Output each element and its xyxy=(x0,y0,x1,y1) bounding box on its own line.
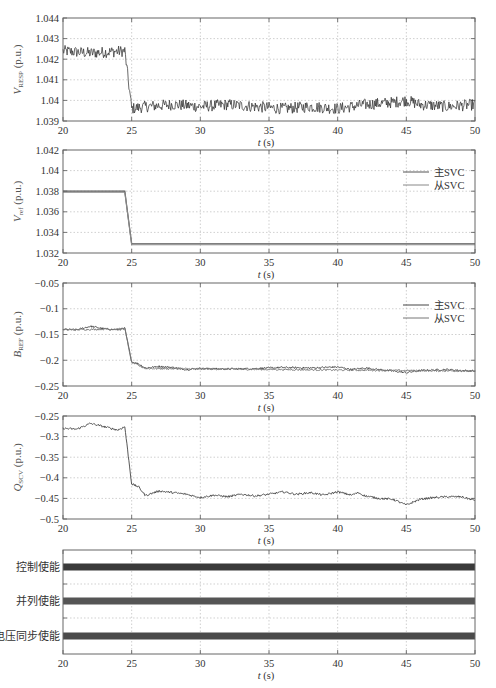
y-tick-label: −0.4 xyxy=(40,472,60,483)
x-tick-label: 20 xyxy=(58,257,69,268)
x-tick-label: 50 xyxy=(470,390,481,401)
y-tick-label: 1.036 xyxy=(35,206,59,217)
figure-canvas: 20253035404550t (s)1.0391.041.0411.0421.… xyxy=(0,0,496,688)
y-tick-label: 1.04 xyxy=(41,95,60,106)
legend-label: 从SVC xyxy=(434,313,464,324)
x-tick-label: 25 xyxy=(126,125,137,136)
x-tick-label: 25 xyxy=(126,390,137,401)
y-tick-label: 1.044 xyxy=(35,13,59,24)
y-tick-label: −0.15 xyxy=(35,329,59,340)
y-tick-label: −0.1 xyxy=(40,303,59,314)
enable-bar xyxy=(63,564,475,571)
y-tick-label: 1.042 xyxy=(35,145,59,156)
x-tick-label: 20 xyxy=(58,125,69,136)
x-tick-label: 20 xyxy=(58,658,69,669)
x-tick-label: 40 xyxy=(332,523,343,534)
y-tick-label: −0.25 xyxy=(35,411,59,422)
category-label: 电压同步使能 xyxy=(0,629,60,642)
x-tick-label: 45 xyxy=(401,658,412,669)
x-tick-label: 30 xyxy=(195,523,206,534)
x-tick-label: 50 xyxy=(470,658,481,669)
y-axis-label: BREF (p.u.) xyxy=(11,311,25,357)
legend-label: 主SVC xyxy=(434,300,464,311)
legend-label: 主SVC xyxy=(434,167,464,178)
x-tick-label: 40 xyxy=(332,125,343,136)
x-tick-label: 25 xyxy=(126,257,137,268)
x-tick-label: 35 xyxy=(264,257,275,268)
panel-enable: 20253035404550t (s)控制使能并列使能电压同步使能 xyxy=(0,550,480,682)
enable-bar xyxy=(63,633,475,640)
x-tick-label: 30 xyxy=(195,125,206,136)
x-tick-label: 50 xyxy=(470,523,481,534)
y-axis-label: VRESP (p.u.) xyxy=(11,44,25,94)
y-tick-label: 1.042 xyxy=(35,54,59,65)
x-tick-label: 45 xyxy=(401,125,412,136)
x-tick-label: 20 xyxy=(58,523,69,534)
x-axis-label: t (s) xyxy=(258,535,275,547)
panel-vref: 20253035404550t (s)1.0321.0341.0361.0381… xyxy=(11,145,480,282)
x-tick-label: 40 xyxy=(332,257,343,268)
x-tick-label: 35 xyxy=(264,523,275,534)
x-axis-label: t (s) xyxy=(258,402,275,414)
x-tick-label: 50 xyxy=(470,257,481,268)
x-tick-label: 20 xyxy=(58,390,69,401)
y-tick-label: −0.35 xyxy=(35,452,59,463)
x-tick-label: 25 xyxy=(126,523,137,534)
y-tick-label: −0.2 xyxy=(40,355,59,366)
y-axis-label: Vref (p.u.) xyxy=(11,181,25,222)
panel-bref: 20253035404550t (s)−0.25−0.2−0.15−0.1−0.… xyxy=(11,278,480,415)
x-tick-label: 30 xyxy=(195,658,206,669)
x-axis-label: t (s) xyxy=(258,137,275,149)
x-tick-label: 45 xyxy=(401,390,412,401)
panel-vresp: 20253035404550t (s)1.0391.041.0411.0421.… xyxy=(11,13,480,150)
x-axis-label: t (s) xyxy=(258,269,275,281)
y-tick-label: 1.039 xyxy=(35,116,59,127)
x-tick-label: 30 xyxy=(195,390,206,401)
x-tick-label: 35 xyxy=(264,125,275,136)
y-tick-label: 1.034 xyxy=(35,227,59,238)
y-tick-label: −0.5 xyxy=(40,514,59,525)
y-tick-label: −0.3 xyxy=(40,431,59,442)
series-line xyxy=(63,423,475,505)
y-tick-label: 1.043 xyxy=(35,33,59,44)
x-tick-label: 40 xyxy=(332,658,343,669)
y-tick-label: 1.041 xyxy=(35,74,59,85)
category-label: 并列使能 xyxy=(16,594,60,607)
x-axis-label: t (s) xyxy=(258,670,275,682)
panel-qscv: 20253035404550t (s)−0.5−0.45−0.4−0.35−0.… xyxy=(11,411,480,548)
y-tick-label: 1.032 xyxy=(35,248,59,259)
x-tick-label: 40 xyxy=(332,390,343,401)
x-tick-label: 35 xyxy=(264,658,275,669)
x-tick-label: 25 xyxy=(126,658,137,669)
x-tick-label: 45 xyxy=(401,523,412,534)
category-label: 控制使能 xyxy=(16,560,60,573)
y-tick-label: 1.038 xyxy=(35,186,59,197)
y-tick-label: −0.25 xyxy=(35,381,59,392)
y-tick-label: 1.04 xyxy=(41,165,60,176)
x-tick-label: 45 xyxy=(401,257,412,268)
y-tick-label: −0.05 xyxy=(35,278,59,289)
x-tick-label: 35 xyxy=(264,390,275,401)
enable-bar xyxy=(63,598,475,605)
x-tick-label: 50 xyxy=(470,125,481,136)
y-axis-label: QSCV (p.u.) xyxy=(11,443,25,491)
x-tick-label: 30 xyxy=(195,257,206,268)
legend-label: 从SVC xyxy=(434,180,464,191)
y-tick-label: −0.45 xyxy=(35,493,59,504)
